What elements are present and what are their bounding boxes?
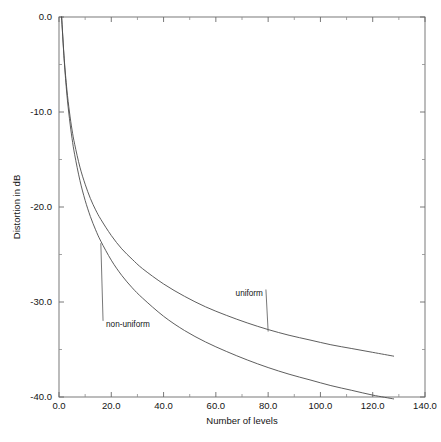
x-tick-label: 20.0 — [102, 400, 121, 411]
data-series-group — [62, 17, 394, 399]
x-tick-label: 80.0 — [259, 400, 278, 411]
x-axis-tick-labels: 0.020.040.060.080.0100.0120.0140.0 — [52, 400, 437, 411]
series-label-non-uniform: non-uniform — [106, 320, 150, 329]
y-tick-label: -10.0 — [30, 106, 52, 117]
y-tick-label: 0.0 — [39, 11, 52, 22]
figure-container: 0.020.040.060.080.0100.0120.0140.0 0.0-1… — [0, 0, 441, 442]
x-tick-label: 100.0 — [309, 400, 333, 411]
x-tick-label: 120.0 — [361, 400, 385, 411]
x-axis-title: Number of levels — [206, 415, 278, 426]
distortion-vs-levels-chart: 0.020.040.060.080.0100.0120.0140.0 0.0-1… — [0, 0, 441, 442]
x-tick-label: 140.0 — [413, 400, 437, 411]
x-tick-label: 60.0 — [207, 400, 226, 411]
y-axis-tick-labels: 0.0-10.0-20.0-30.0-40.0 — [30, 11, 52, 402]
axis-ticks — [59, 17, 425, 397]
x-tick-label: 40.0 — [154, 400, 173, 411]
x-tick-label: 0.0 — [52, 400, 65, 411]
series-label-uniform: uniform — [236, 289, 263, 298]
y-axis-title: Distortion in dB — [11, 175, 22, 239]
leader-line-non-uniform — [101, 243, 103, 321]
series-line-uniform — [62, 17, 394, 356]
leader-line-uniform — [266, 290, 268, 332]
series-annotations: uniformnon-uniform — [101, 243, 268, 331]
y-tick-label: -30.0 — [30, 296, 52, 307]
plot-frame — [59, 17, 425, 397]
page-body-text-fragment — [14, 432, 429, 441]
y-tick-label: -20.0 — [30, 201, 52, 212]
y-tick-label: -40.0 — [30, 391, 52, 402]
series-line-non-uniform — [62, 17, 394, 399]
